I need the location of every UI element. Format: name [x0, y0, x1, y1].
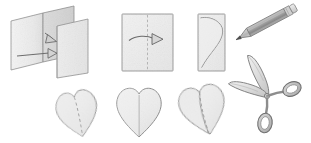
step-3-draw-half-heart	[198, 14, 225, 71]
scissor-shank-lower	[266, 99, 267, 115]
step-2-fold-again	[122, 14, 173, 71]
card-left-panel	[11, 13, 43, 70]
craft-diagram	[0, 0, 311, 143]
illustration-canvas: Paper heart cutting instructions Six-ste…	[0, 0, 311, 143]
card-right-panel	[57, 19, 88, 78]
